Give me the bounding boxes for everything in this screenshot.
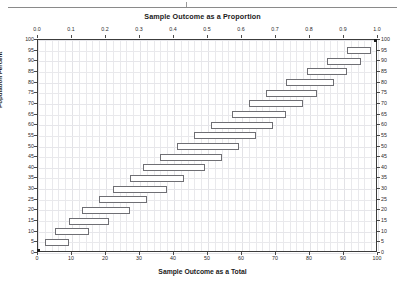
gridline-horizontal [38, 168, 376, 169]
bottom-axis-tickmark [309, 252, 310, 255]
confidence-interval-bar [286, 79, 334, 86]
left-axis-tickmark [34, 231, 37, 232]
right-axis-tick: 55 [381, 132, 399, 138]
bottom-axis-tick: 50 [197, 255, 217, 261]
bottom-axis-tick: 0 [27, 255, 47, 261]
left-axis-tickmark [34, 82, 37, 83]
left-axis-tick: 80 [18, 79, 34, 85]
right-axis-tick: 50 [381, 143, 399, 149]
gridline-horizontal [38, 189, 376, 190]
top-axis-tickmark [207, 35, 208, 38]
left-axis-tick: 30 [18, 185, 34, 191]
left-axis-tickmark [34, 92, 37, 93]
top-axis-tick: 0.8 [299, 26, 319, 32]
top-axis-tick: 1.0 [367, 26, 387, 32]
confidence-interval-bar [69, 218, 110, 225]
left-axis-tickmark [34, 199, 37, 200]
bottom-axis-tickmark [241, 252, 242, 255]
right-axis-tick: 60 [381, 121, 399, 127]
bottom-axis-tickmark [105, 252, 106, 255]
gridline-horizontal [38, 51, 376, 52]
confidence-interval-bar [211, 122, 272, 129]
gridline-horizontal [38, 61, 376, 62]
right-axis-tickmark [377, 103, 380, 104]
left-axis-tickmark [34, 146, 37, 147]
right-axis-tick: 10 [381, 228, 399, 234]
confidence-interval-bar [249, 100, 303, 107]
confidence-interval-bar [307, 68, 348, 75]
left-axis-tick: 65 [18, 111, 34, 117]
bottom-axis-tick: 10 [61, 255, 81, 261]
top-axis-tickmark [241, 35, 242, 38]
top-axis-tickmark [173, 35, 174, 38]
left-axis-tick: 60 [18, 121, 34, 127]
gridline-horizontal [38, 125, 376, 126]
left-axis-tickmark [34, 188, 37, 189]
top-axis-tickmark [37, 35, 38, 38]
confidence-interval-bar [45, 239, 69, 246]
chart-title: Sample Outcome as a Proportion [0, 12, 405, 21]
bottom-axis-tickmark [139, 252, 140, 255]
bottom-axis-tickmark [37, 252, 38, 255]
bottom-axis-tick: 70 [265, 255, 285, 261]
confidence-interval-bar [194, 132, 255, 139]
gridline-horizontal [38, 40, 376, 41]
right-axis-tick: 100 [381, 36, 399, 42]
left-axis-tickmark [34, 167, 37, 168]
gridline-horizontal [38, 93, 376, 94]
left-axis-tick: 25 [18, 196, 34, 202]
right-axis-tick: 70 [381, 100, 399, 106]
bottom-axis-tick: 90 [333, 255, 353, 261]
top-axis-tickmark [139, 35, 140, 38]
top-axis-tickmark [309, 35, 310, 38]
top-axis-tick: 0.3 [129, 26, 149, 32]
header-divider [8, 7, 397, 8]
left-axis-tick: 90 [18, 57, 34, 63]
top-axis-tickmark [377, 35, 378, 38]
right-axis-tickmark [377, 146, 380, 147]
top-axis-tick: 0.6 [231, 26, 251, 32]
top-axis-tick: 0.0 [27, 26, 47, 32]
confidence-interval-bar [113, 186, 167, 193]
top-axis-tick: 0.2 [95, 26, 115, 32]
right-axis-tickmark [377, 135, 380, 136]
confidence-interval-bar [82, 207, 130, 214]
right-axis-tick: 30 [381, 185, 399, 191]
left-axis-tick: 100 [18, 36, 34, 42]
confidence-interval-bar [327, 58, 361, 65]
right-axis-tickmark [377, 71, 380, 72]
top-axis-tickmark [343, 35, 344, 38]
bottom-axis-tick: 20 [95, 255, 115, 261]
top-axis-tickmark [105, 35, 106, 38]
confidence-interval-bar [143, 164, 204, 171]
bottom-axis-tick: 100 [367, 255, 387, 261]
gridline-horizontal [38, 200, 376, 201]
confidence-interval-bar [347, 47, 371, 54]
right-axis-tickmark [377, 124, 380, 125]
bottom-axis-tickmark [275, 252, 276, 255]
left-axis-tick: 95 [18, 47, 34, 53]
left-axis-tick: 10 [18, 228, 34, 234]
confidence-interval-bar [130, 175, 184, 182]
right-axis-tick: 35 [381, 174, 399, 180]
confidence-interval-bar [177, 143, 238, 150]
right-axis-tick: 85 [381, 68, 399, 74]
right-axis-tickmark [377, 92, 380, 93]
left-axis-tick: 85 [18, 68, 34, 74]
right-axis-tickmark [377, 231, 380, 232]
left-axis-tick: 55 [18, 132, 34, 138]
header-divider-tick [186, 2, 187, 7]
right-axis-tick: 90 [381, 57, 399, 63]
gridline-horizontal [38, 115, 376, 116]
top-axis-tick: 0.5 [197, 26, 217, 32]
bottom-axis-tickmark [173, 252, 174, 255]
left-axis-tick: 35 [18, 174, 34, 180]
left-axis-tickmark [34, 50, 37, 51]
confidence-interval-bar [55, 228, 89, 235]
left-axis-tickmark [34, 156, 37, 157]
top-axis-tickmark [275, 35, 276, 38]
right-axis-tickmark [377, 60, 380, 61]
right-axis-tick: 40 [381, 164, 399, 170]
right-axis-tickmark [377, 188, 380, 189]
left-axis-tickmark [34, 71, 37, 72]
